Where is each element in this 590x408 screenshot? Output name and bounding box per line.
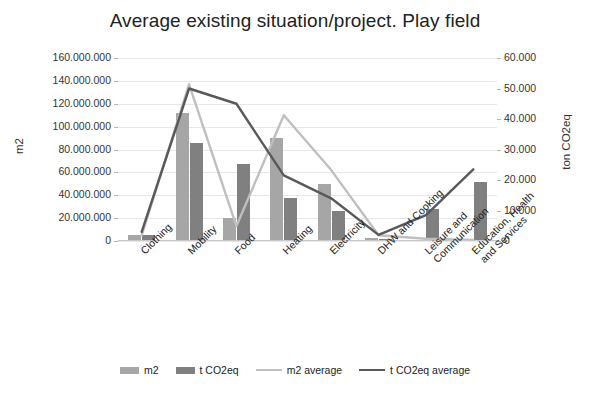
legend-line-swatch <box>256 369 282 371</box>
legend-label: t CO2eq <box>200 364 239 376</box>
y-axis-left-tick-label: 40.000.000 <box>18 188 111 200</box>
legend-label: m2 <box>144 364 159 376</box>
line-series-layer <box>118 58 497 241</box>
y-axis-left-tick-label: 120.000.000 <box>18 97 111 109</box>
y-axis-left-tick-label: 100.000.000 <box>18 120 111 132</box>
y-axis-left-tick-label: 160.000.000 <box>18 51 111 63</box>
legend-line-swatch <box>359 369 385 371</box>
y-axis-right-tick-label: 30.000 <box>504 143 564 155</box>
y-axis-right-tick-label: 60.000 <box>504 51 564 63</box>
legend-item[interactable]: t CO2eq average <box>359 364 470 376</box>
y-axis-right-tick-label: 40.000 <box>504 112 564 124</box>
y-axis-left-tick-label: 60.000.000 <box>18 165 111 177</box>
legend-item[interactable]: m2 <box>120 364 159 376</box>
y-axis-right-tickmark <box>497 119 501 120</box>
y-axis-right-tick-label: 50.000 <box>504 82 564 94</box>
y-axis-left-tick-label: 80.000.000 <box>18 143 111 155</box>
chart-container: Average existing situation/project. Play… <box>0 0 590 408</box>
legend-label: t CO2eq average <box>390 364 470 376</box>
y-axis-right-tickmark <box>497 150 501 151</box>
y-axis-right-tickmark <box>497 89 501 90</box>
legend-item[interactable]: t CO2eq <box>176 364 239 376</box>
y-axis-left-tick-label: 20.000.000 <box>18 211 111 223</box>
chart-title: Average existing situation/project. Play… <box>0 10 590 32</box>
y-axis-left-tick-label: 140.000.000 <box>18 74 111 86</box>
plot-area <box>118 58 497 241</box>
legend-bar-swatch <box>120 367 139 374</box>
y-axis-right-tickmark <box>497 58 501 59</box>
legend-label: m2 average <box>287 364 342 376</box>
legend-bar-swatch <box>176 367 195 374</box>
y-axis-left-tick-label: 0 <box>18 234 111 246</box>
legend-item[interactable]: m2 average <box>256 364 342 376</box>
chart-legend: m2t CO2eqm2 averaget CO2eq average <box>0 364 590 376</box>
y-axis-right-tickmark <box>497 211 501 212</box>
